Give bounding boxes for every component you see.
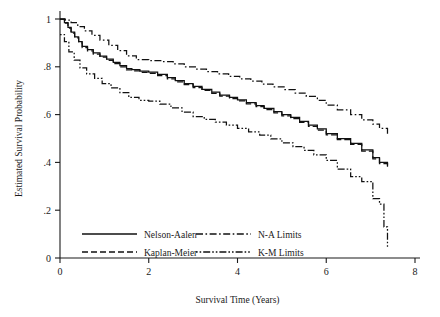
- survival-plot: 024680.2.4.6.81Survival Time (Years)Esti…: [0, 0, 440, 317]
- y-tick-label: .8: [44, 61, 52, 72]
- y-tick-label: .6: [44, 109, 52, 120]
- y-tick-label: .2: [44, 205, 52, 216]
- legend-label: K-M Limits: [258, 248, 304, 258]
- y-tick-label: 0: [46, 253, 51, 264]
- legend-label: N-A Limits: [258, 230, 302, 240]
- x-tick-label: 4: [235, 266, 240, 277]
- x-tick-label: 0: [58, 266, 63, 277]
- x-tick-label: 6: [324, 266, 329, 277]
- series-line-n-a-limits: [60, 19, 387, 134]
- y-tick-label: 1: [46, 14, 51, 25]
- x-axis-label: Survival Time (Years): [195, 295, 279, 306]
- legend-label: Nelson-Aalen: [144, 230, 197, 240]
- y-tick-label: .4: [44, 157, 52, 168]
- x-tick-label: 8: [413, 266, 418, 277]
- legend-label: Kaplan-Meier: [144, 248, 198, 258]
- chart-figure: 024680.2.4.6.81Survival Time (Years)Esti…: [0, 0, 440, 317]
- series-line-k-m-limits: [60, 35, 387, 248]
- y-axis-label: Estimated Survival Probability: [14, 80, 24, 197]
- x-tick-label: 2: [146, 266, 151, 277]
